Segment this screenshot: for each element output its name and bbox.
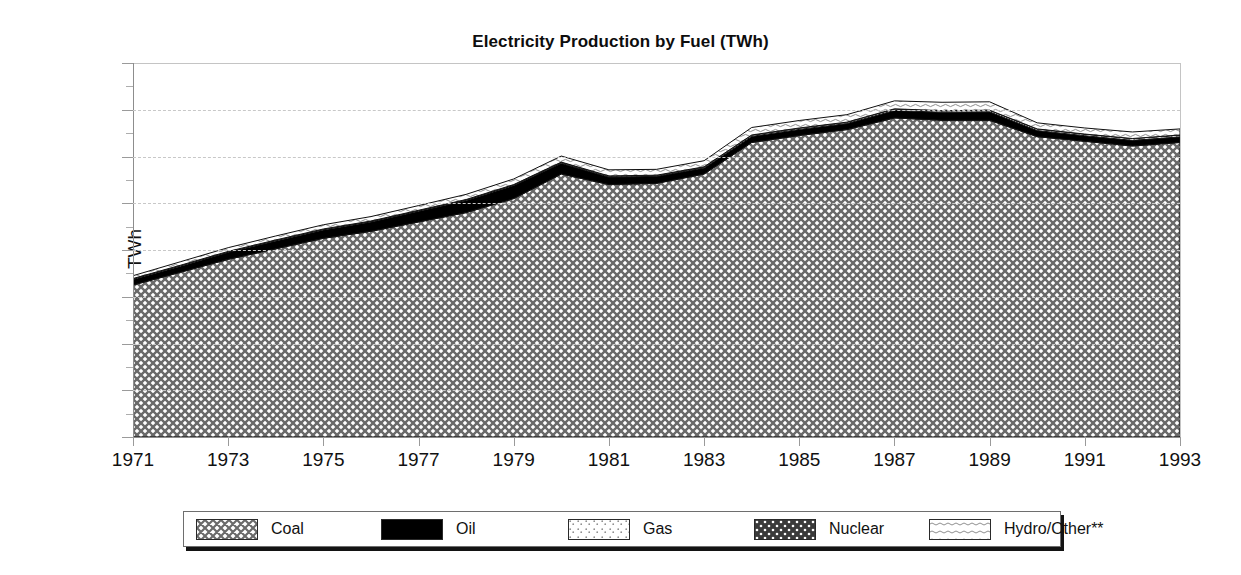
gridline-60: [133, 297, 1180, 298]
y-tick-160: [122, 63, 133, 64]
x-axis-line: [133, 437, 1180, 438]
legend-swatch-oil: [381, 519, 443, 540]
y-tick-80: [122, 250, 133, 251]
legend-swatch-coal: [196, 519, 258, 540]
legend-item-oil[interactable]: Oil: [381, 519, 476, 540]
x-tick-label-1983: 1983: [659, 449, 749, 471]
y-minor-tick-10: [126, 414, 133, 415]
y-minor-tick-90: [126, 227, 133, 228]
x-tick-1975: [323, 437, 324, 446]
legend-item-hydroother[interactable]: Hydro/Other**: [929, 519, 1104, 540]
gridline-120: [133, 157, 1180, 158]
x-tick-1993: [1180, 437, 1181, 446]
y-tick-60: [122, 297, 133, 298]
x-tick-label-1987: 1987: [849, 449, 939, 471]
y-minor-tick-130: [126, 133, 133, 134]
x-tick-label-1975: 1975: [278, 449, 368, 471]
gridline-40: [133, 344, 1180, 345]
area-series-coal: [133, 118, 1180, 437]
legend-label: Nuclear: [829, 520, 884, 538]
x-tick-1989: [990, 437, 991, 446]
x-tick-1977: [419, 437, 420, 446]
legend-swatch-nuclear: [754, 519, 816, 540]
x-tick-1971: [133, 437, 134, 446]
x-tick-1973: [228, 437, 229, 446]
y-minor-tick-50: [126, 320, 133, 321]
x-tick-label-1989: 1989: [945, 449, 1035, 471]
x-tick-1979: [514, 437, 515, 446]
y-tick-0: [122, 437, 133, 438]
legend-item-gas[interactable]: Gas: [568, 519, 672, 540]
y-tick-40: [122, 344, 133, 345]
x-tick-1981: [609, 437, 610, 446]
x-tick-1983: [704, 437, 705, 446]
legend-swatch-hydroother: [929, 519, 991, 540]
gridline-20: [133, 390, 1180, 391]
y-minor-tick-70: [126, 273, 133, 274]
legend-label: Oil: [456, 520, 476, 538]
x-tick-label-1971: 1971: [88, 449, 178, 471]
gridline-100: [133, 203, 1180, 204]
x-tick-label-1973: 1973: [183, 449, 273, 471]
legend-label: Gas: [643, 520, 672, 538]
plot-area: TWh: [133, 63, 1180, 437]
x-tick-label-1991: 1991: [1040, 449, 1130, 471]
gridline-140: [133, 110, 1180, 111]
electricity-production-chart: Electricity Production by Fuel (TWh) TWh: [0, 0, 1241, 575]
y-tick-120: [122, 157, 133, 158]
y-tick-20: [122, 390, 133, 391]
legend-label: Coal: [271, 520, 304, 538]
x-tick-label-1977: 1977: [374, 449, 464, 471]
legend-label: Hydro/Other**: [1004, 520, 1104, 538]
x-tick-label-1979: 1979: [469, 449, 559, 471]
y-minor-tick-150: [126, 86, 133, 87]
y-minor-tick-30: [126, 367, 133, 368]
y-tick-100: [122, 203, 133, 204]
x-tick-1985: [799, 437, 800, 446]
x-tick-label-1993: 1993: [1135, 449, 1225, 471]
chart-legend: CoalOilGasNuclearHydro/Other**: [183, 511, 1061, 547]
gridline-80: [133, 250, 1180, 251]
y-minor-tick-110: [126, 180, 133, 181]
legend-item-coal[interactable]: Coal: [196, 519, 304, 540]
x-tick-label-1985: 1985: [754, 449, 844, 471]
plot-border-right: [1180, 63, 1181, 437]
x-tick-label-1981: 1981: [564, 449, 654, 471]
legend-item-nuclear[interactable]: Nuclear: [754, 519, 884, 540]
x-tick-1987: [894, 437, 895, 446]
x-tick-1991: [1085, 437, 1086, 446]
y-tick-140: [122, 110, 133, 111]
chart-title: Electricity Production by Fuel (TWh): [0, 32, 1241, 52]
legend-swatch-gas: [568, 519, 630, 540]
